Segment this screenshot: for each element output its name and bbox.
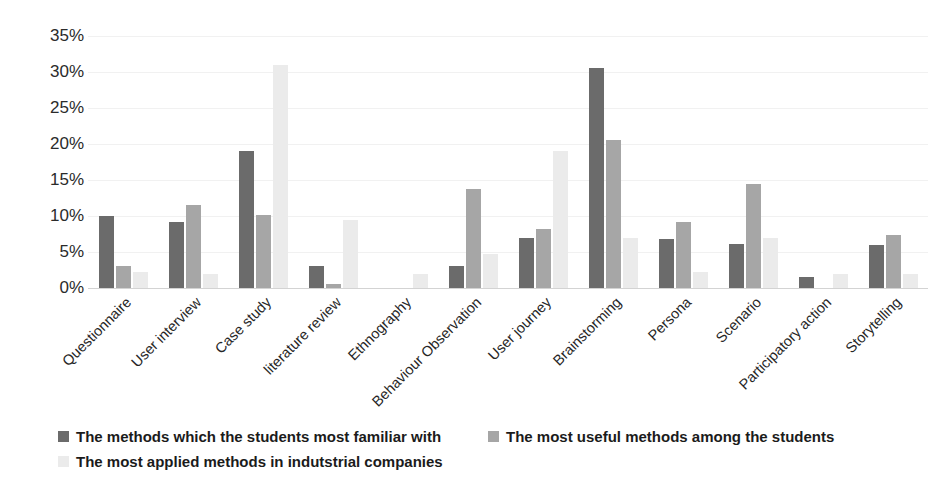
bar[interactable]	[169, 222, 184, 288]
bar[interactable]	[466, 189, 481, 288]
bar-group	[158, 36, 228, 288]
bar[interactable]	[186, 205, 201, 288]
bar-group	[858, 36, 928, 288]
bar[interactable]	[676, 222, 691, 288]
y-axis-tick: 20%	[28, 134, 84, 154]
bar[interactable]	[116, 266, 131, 288]
x-axis-label-cell: Brainstorming	[578, 290, 648, 410]
legend-swatch-icon	[488, 431, 499, 442]
bar-group	[718, 36, 788, 288]
bar-group	[228, 36, 298, 288]
legend-swatch-icon	[58, 431, 69, 442]
bar[interactable]	[833, 274, 848, 288]
y-axis-tick: 25%	[28, 98, 84, 118]
legend-label: The most useful methods among the studen…	[506, 428, 834, 445]
bar[interactable]	[606, 140, 621, 288]
bar[interactable]	[903, 274, 918, 288]
y-axis-tick: 35%	[28, 26, 84, 46]
bar[interactable]	[589, 68, 604, 288]
bar-group	[578, 36, 648, 288]
bar[interactable]	[449, 266, 464, 288]
bar[interactable]	[746, 184, 761, 288]
bar[interactable]	[536, 229, 551, 288]
x-axis-labels: QuestionnaireUser interviewCase studylit…	[88, 290, 928, 410]
bar-group	[368, 36, 438, 288]
bar[interactable]	[623, 238, 638, 288]
bar[interactable]	[203, 274, 218, 288]
bar[interactable]	[256, 215, 271, 288]
bar[interactable]	[483, 254, 498, 288]
chart-page: 35%30%25%20%15%10%5%0% QuestionnaireUser…	[0, 0, 949, 497]
y-axis: 35%30%25%20%15%10%5%0%	[28, 36, 84, 288]
bar[interactable]	[273, 65, 288, 288]
legend-item[interactable]: The most applied methods in indutstrial …	[58, 453, 488, 470]
legend-label: The methods which the students most fami…	[76, 428, 441, 445]
bar[interactable]	[343, 220, 358, 288]
y-axis-tick: 5%	[28, 242, 84, 262]
bar-group	[508, 36, 578, 288]
y-axis-tick: 0%	[28, 278, 84, 298]
x-axis-label: Scenario	[713, 294, 765, 346]
bar[interactable]	[799, 277, 814, 288]
bar-group	[298, 36, 368, 288]
legend-item[interactable]: The methods which the students most fami…	[58, 428, 488, 445]
y-axis-tick: 15%	[28, 170, 84, 190]
y-axis-tick: 30%	[28, 62, 84, 82]
bar[interactable]	[99, 216, 114, 288]
chart-legend: The methods which the students most fami…	[58, 424, 918, 474]
bar[interactable]	[326, 284, 341, 288]
bar-group	[648, 36, 718, 288]
bar[interactable]	[763, 238, 778, 288]
bar-group	[788, 36, 858, 288]
bar[interactable]	[133, 272, 148, 288]
legend-row: The most applied methods in indutstrial …	[58, 449, 918, 474]
bar-group	[438, 36, 508, 288]
legend-row: The methods which the students most fami…	[58, 424, 918, 449]
bar[interactable]	[659, 239, 674, 288]
legend-item[interactable]: The most useful methods among the studen…	[488, 428, 834, 445]
legend-label: The most applied methods in indutstrial …	[76, 453, 443, 470]
bar[interactable]	[519, 238, 534, 288]
bar-groups	[88, 36, 928, 288]
bar[interactable]	[413, 274, 428, 288]
bar[interactable]	[693, 272, 708, 288]
x-axis-label-cell: Persona	[648, 290, 718, 410]
y-axis-tick: 10%	[28, 206, 84, 226]
x-axis-label: Persona	[645, 294, 695, 344]
bar[interactable]	[729, 244, 744, 288]
bar[interactable]	[553, 151, 568, 288]
axis-baseline	[88, 288, 928, 289]
bar[interactable]	[309, 266, 324, 288]
bar[interactable]	[886, 235, 901, 288]
legend-swatch-icon	[58, 456, 69, 467]
plot-area	[88, 36, 928, 288]
bar[interactable]	[869, 245, 884, 288]
bar-group	[88, 36, 158, 288]
bar[interactable]	[239, 151, 254, 288]
x-axis-label-cell: Storytelling	[858, 290, 928, 410]
x-axis-label: Questionnaire	[59, 294, 134, 369]
